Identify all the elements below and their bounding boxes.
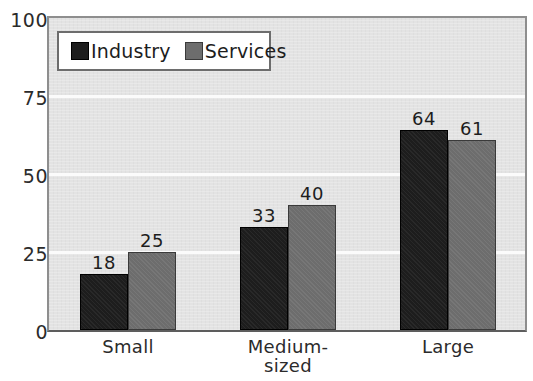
legend-label-industry: Industry <box>91 42 171 61</box>
x-axis-label-large: Large <box>363 338 533 357</box>
bar-chart: 100 75 50 25 0 18 25 33 40 64 61 Industr… <box>0 0 533 381</box>
bar-label-large-services: 61 <box>444 120 500 138</box>
x-axis-label-small: Small <box>43 338 213 357</box>
bar-small-industry <box>80 274 128 330</box>
bar-label-small-industry: 18 <box>76 254 132 272</box>
x-axis-label-large-line1: Large <box>422 336 474 357</box>
y-axis-tick-0: 0 <box>4 323 48 342</box>
bar-label-small-services: 25 <box>124 232 180 250</box>
bar-large-services <box>448 140 496 330</box>
gridline-75 <box>49 95 525 98</box>
bar-medium-services <box>288 205 336 330</box>
x-axis-label-medium-line2: sized <box>203 357 373 376</box>
bar-large-industry <box>400 130 448 330</box>
legend-swatch-industry-icon <box>71 42 89 60</box>
bar-small-services <box>128 252 176 330</box>
x-axis-label-small-line1: Small <box>102 336 154 357</box>
bar-medium-industry <box>240 227 288 330</box>
legend-swatch-services-icon <box>185 42 203 60</box>
x-axis-label-medium: Medium- sized <box>203 338 373 376</box>
bar-label-medium-industry: 33 <box>236 207 292 225</box>
x-axis-label-medium-line1: Medium- <box>248 336 329 357</box>
y-axis-tick-100: 100 <box>4 11 48 30</box>
y-axis-tick-75: 75 <box>4 89 48 108</box>
y-axis-tick-50: 50 <box>4 167 48 186</box>
y-axis-tick-25: 25 <box>4 245 48 264</box>
legend-entry-industry: Industry <box>71 42 171 61</box>
legend-label-services: Services <box>205 42 287 61</box>
bar-label-medium-services: 40 <box>284 185 340 203</box>
legend-entry-services: Services <box>185 42 287 61</box>
legend: Industry Services <box>57 31 271 71</box>
